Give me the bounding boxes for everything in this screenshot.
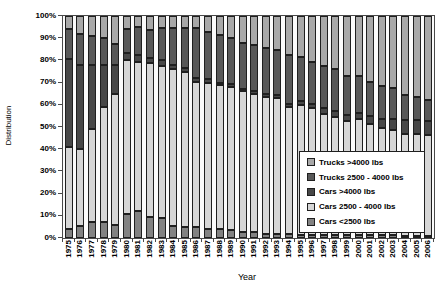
bar-1985 <box>181 16 189 238</box>
bar-segment <box>389 16 397 88</box>
bar-segment <box>424 236 432 238</box>
bar-segment <box>111 44 119 65</box>
bar-segment <box>239 91 247 232</box>
x-tick-label: 1977 <box>87 240 97 274</box>
x-axis-tick <box>410 239 411 242</box>
bar-segment <box>366 116 374 124</box>
bar-segment <box>204 83 212 230</box>
legend-swatch-icon <box>307 158 315 166</box>
bar-segment <box>204 16 212 32</box>
bar-segment <box>158 28 166 60</box>
bar-segment <box>262 97 270 234</box>
y-axis-tick <box>58 59 62 60</box>
y-tick-label: 80% <box>18 55 56 64</box>
bar-1977 <box>88 16 96 238</box>
bar-segment <box>65 16 73 29</box>
y-axis-tick <box>58 37 62 38</box>
bar-segment <box>308 235 316 238</box>
bar-segment <box>181 16 189 28</box>
bar-segment <box>76 149 84 226</box>
bar-segment <box>413 16 421 97</box>
x-axis-tick <box>62 239 63 242</box>
x-tick-label: 2004 <box>400 240 410 274</box>
x-axis-tick <box>120 239 121 242</box>
x-tick-label: 1996 <box>307 240 317 274</box>
x-axis-tick <box>236 239 237 242</box>
bar-1986 <box>192 16 200 238</box>
y-tick-label: 100% <box>18 11 56 20</box>
bar-segment <box>331 69 339 111</box>
bar-1975 <box>65 16 73 238</box>
y-tick-label: 40% <box>18 144 56 153</box>
legend-label: Cars >4000 lbs <box>319 187 375 196</box>
bar-segment <box>204 32 212 80</box>
x-tick-label: 1991 <box>249 240 259 274</box>
bar-segment <box>111 225 119 238</box>
bar-1979 <box>111 16 119 238</box>
bar-1982 <box>146 16 154 238</box>
bar-segment <box>65 59 73 147</box>
x-tick-label: 1988 <box>215 240 225 274</box>
x-tick-label: 1978 <box>99 240 109 274</box>
bar-segment <box>181 28 189 68</box>
y-axis-tick <box>58 215 62 216</box>
x-tick-label: 1999 <box>342 240 352 274</box>
x-tick-label: 1987 <box>203 240 213 274</box>
bar-segment <box>320 235 328 238</box>
y-axis-tick <box>58 170 62 171</box>
bar-segment <box>355 76 363 113</box>
bar-segment <box>227 87 235 230</box>
bar-segment <box>227 38 235 84</box>
x-tick-label: 1976 <box>75 240 85 274</box>
y-tick-label: 0% <box>18 233 56 242</box>
x-tick-label: 1980 <box>122 240 132 274</box>
bar-segment <box>413 236 421 238</box>
bar-1988 <box>216 16 224 238</box>
legend-label: Trucks >4000 lbs <box>319 158 383 167</box>
y-tick-label: 60% <box>18 99 56 108</box>
bar-segment <box>424 121 432 136</box>
bar-1976 <box>76 16 84 238</box>
bar-segment <box>273 234 281 238</box>
bar-segment <box>227 16 235 38</box>
bar-segment <box>308 16 316 62</box>
bar-segment <box>389 235 397 238</box>
bar-1991 <box>250 16 258 238</box>
bar-1981 <box>134 16 142 238</box>
bar-segment <box>192 82 200 227</box>
x-axis-tick <box>213 239 214 242</box>
x-tick-label: 1993 <box>272 240 282 274</box>
legend-item: Cars <2500 lbs <box>307 217 424 226</box>
bar-segment <box>123 214 131 238</box>
legend-swatch-icon <box>307 218 315 226</box>
bar-segment <box>158 16 166 28</box>
bar-segment <box>216 16 224 35</box>
x-axis-tick <box>282 239 283 242</box>
x-axis-tick <box>352 239 353 242</box>
x-axis-tick <box>155 239 156 242</box>
bar-segment <box>401 16 409 95</box>
bar-segment <box>331 235 339 238</box>
y-tick-label: 70% <box>18 77 56 86</box>
bar-segment <box>401 95 409 120</box>
bar-1987 <box>204 16 212 238</box>
bar-segment <box>424 16 432 100</box>
bar-segment <box>285 107 293 234</box>
legend-swatch-icon <box>307 173 315 181</box>
x-axis-tick <box>317 239 318 242</box>
bar-segment <box>389 88 397 119</box>
bar-segment <box>297 235 305 238</box>
bar-segment <box>343 115 351 122</box>
y-axis-tick <box>58 193 62 194</box>
x-tick-label: 2003 <box>388 240 398 274</box>
x-tick-label: 1984 <box>168 240 178 274</box>
bar-segment <box>401 120 409 133</box>
x-tick-label: 2001 <box>365 240 375 274</box>
bar-segment <box>169 69 177 226</box>
bar-segment <box>343 16 351 76</box>
bar-segment <box>355 113 363 120</box>
y-axis-tick <box>58 237 62 238</box>
x-axis-tick <box>433 239 434 242</box>
x-tick-label: 1989 <box>226 240 236 274</box>
y-axis-tick <box>58 15 62 16</box>
